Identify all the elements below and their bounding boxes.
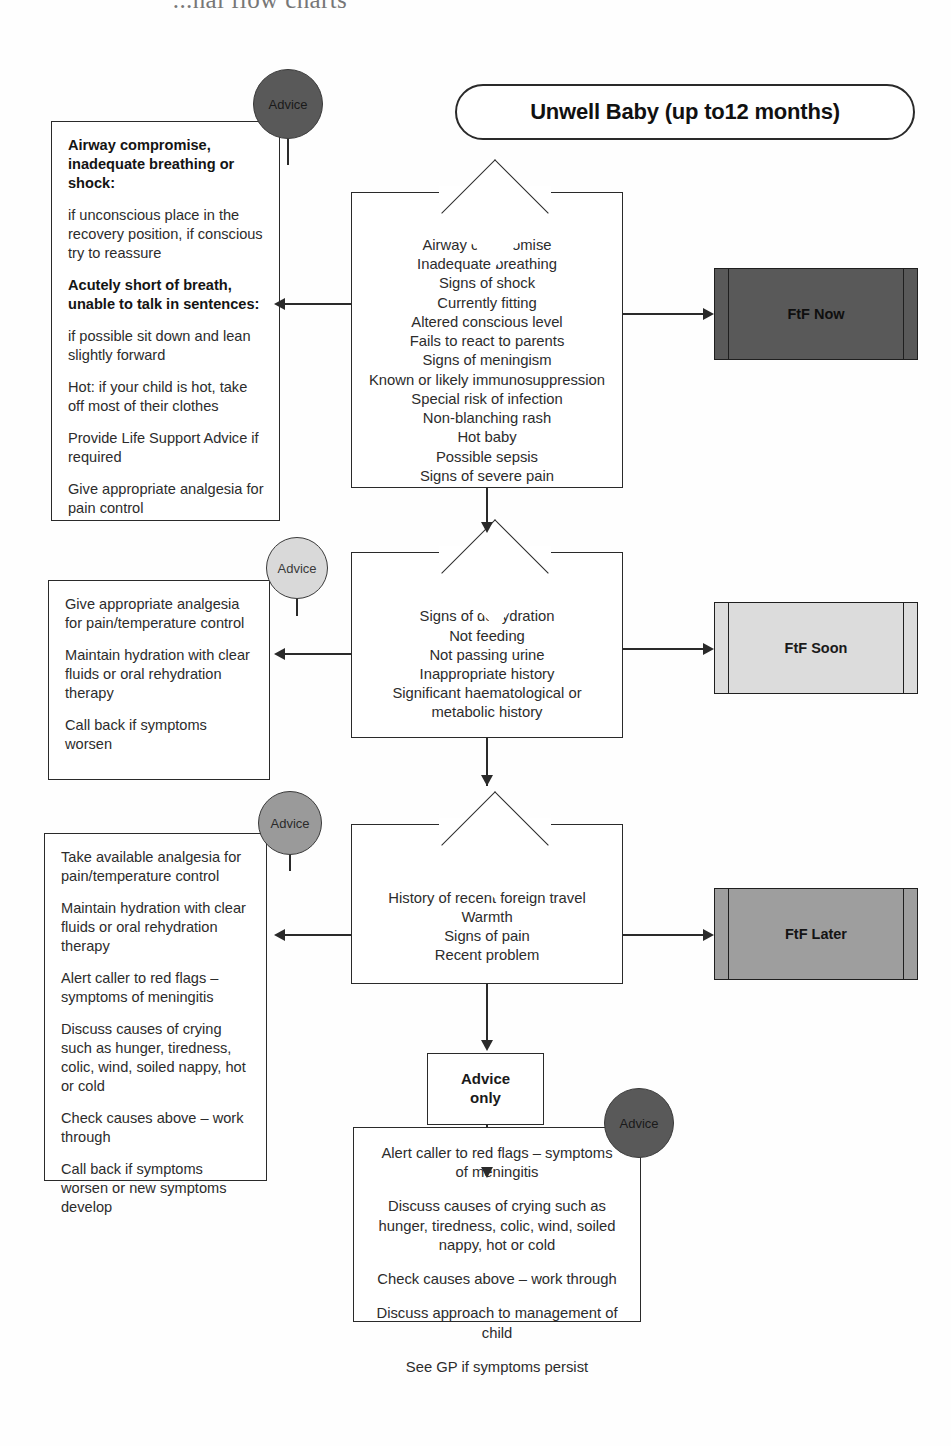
final-advice-line: Discuss approach to management of child — [374, 1304, 620, 1342]
decision-criterion: Significant haematological or — [392, 684, 581, 703]
final-advice-line: Alert caller to red flags – symptoms of … — [374, 1144, 620, 1182]
decision-criterion: Signs of meningism — [369, 351, 605, 370]
arrowhead-dec1-down — [481, 522, 493, 533]
ftf-now-label: FtF Now — [787, 306, 844, 322]
connector-dec3-to-adviceonly — [486, 984, 488, 1046]
flowchart-page: ...nal flow charts Unwell Baby (up to12 … — [0, 0, 951, 1446]
advice-only-line1: Advice — [461, 1070, 510, 1089]
advice-line: Give appropriate analgesia for pain cont… — [68, 480, 265, 518]
decision-criterion: Possible sepsis — [369, 448, 605, 467]
arrowhead-adviceonly-down — [481, 1167, 493, 1178]
final-advice-line: Discuss causes of crying such as hunger,… — [374, 1197, 620, 1255]
box3d-left-edge — [728, 269, 729, 359]
arrowhead-dec3-down — [481, 1040, 493, 1051]
box3d-left-edge — [728, 889, 729, 979]
ftf-now-box[interactable]: FtF Now — [714, 268, 918, 360]
final-advice-line: Check causes above – work through — [374, 1270, 620, 1289]
decision-criterion: Recent problem — [388, 946, 585, 965]
advice-circle-1-label: Advice — [268, 97, 307, 112]
advice-circle-2-label: Advice — [277, 561, 316, 576]
advice-circle-1[interactable]: Advice — [253, 69, 323, 139]
decision-criterion: Not feeding — [392, 627, 581, 646]
advice-circle-3[interactable]: Advice — [258, 791, 322, 855]
decision-criterion: metabolic history — [392, 703, 581, 722]
advice-box-now: Airway compromise, inadequate breathing … — [51, 121, 280, 521]
connector-dec2-to-ftfsoon — [623, 648, 703, 650]
decision-criterion: Signs of shock — [369, 274, 605, 293]
connector-dec3-to-ftflater — [623, 934, 703, 936]
advice-line: Airway compromise, inadequate breathing … — [68, 136, 265, 193]
advice-line: Discuss causes of crying such as hunger,… — [61, 1020, 252, 1096]
decision-criterion: Signs of severe pain — [369, 467, 605, 486]
advice-circle-2[interactable]: Advice — [266, 537, 328, 599]
decision-criterion: Currently fitting — [369, 294, 605, 313]
final-advice-box: Alert caller to red flags – symptoms of … — [353, 1127, 641, 1322]
arrowhead-dec1-right — [703, 308, 714, 320]
decision-criterion: Altered conscious level — [369, 313, 605, 332]
box3d-right-edge — [903, 603, 904, 693]
advice-line: Give appropriate analgesia for pain/temp… — [65, 595, 255, 633]
ftf-later-box[interactable]: FtF Later — [714, 888, 918, 980]
advice-circle-4[interactable]: Advice — [604, 1088, 674, 1158]
decision-criterion: Fails to react to parents — [369, 332, 605, 351]
advice-circle-3-label: Advice — [270, 816, 309, 831]
ftf-soon-label: FtF Soon — [785, 640, 848, 656]
final-advice-line: See GP if symptoms persist — [374, 1358, 620, 1377]
advice-line: Maintain hydration with clear fluids or … — [61, 899, 252, 956]
decision-criterion: Special risk of infection — [369, 390, 605, 409]
decision-criterion: Non-blanching rash — [369, 409, 605, 428]
advice-line: Hot: if your child is hot, take off most… — [68, 378, 265, 416]
connector-dec1-to-advice1 — [283, 303, 351, 305]
page-header-clipped: ...nal flow charts — [0, 0, 520, 12]
connector-dec1-to-ftfnow — [623, 313, 703, 315]
advice-line: Acutely short of breath, unable to talk … — [68, 276, 265, 314]
advice-box-soon: Give appropriate analgesia for pain/temp… — [48, 580, 270, 780]
arrowhead-dec1-left — [274, 298, 285, 310]
advice-line: if unconscious place in the recovery pos… — [68, 206, 265, 263]
arrowhead-dec2-left — [274, 648, 285, 660]
ftf-soon-box[interactable]: FtF Soon — [714, 602, 918, 694]
box3d-left-edge — [728, 603, 729, 693]
decision-criterion: Not passing urine — [392, 646, 581, 665]
arrowhead-dec3-left — [274, 929, 285, 941]
box3d-right-edge — [903, 269, 904, 359]
advice-only-box[interactable]: Advice only — [427, 1053, 544, 1125]
connector-dec2-to-advice2 — [283, 653, 351, 655]
advice-line: Alert caller to red flags – symptoms of … — [61, 969, 252, 1007]
ftf-later-label: FtF Later — [785, 926, 847, 942]
connector-dec3-to-advice3 — [283, 934, 351, 936]
advice-line: Call back if symptoms worsen — [65, 716, 255, 754]
advice-line: Call back if symptoms worsen or new symp… — [61, 1160, 252, 1217]
advice-line: Take available analgesia for pain/temper… — [61, 848, 252, 886]
decision-criterion: Hot baby — [369, 428, 605, 447]
advice-line: if possible sit down and lean slightly f… — [68, 327, 265, 365]
arrowhead-dec2-down — [481, 775, 493, 786]
page-title: Unwell Baby (up to12 months) — [455, 84, 915, 140]
box3d-right-edge — [903, 889, 904, 979]
arrowhead-dec3-right — [703, 929, 714, 941]
decision-criterion: Signs of pain — [388, 927, 585, 946]
decision-criterion: Warmth — [388, 908, 585, 927]
decision-criterion: Inappropriate history — [392, 665, 581, 684]
advice-circle-4-label: Advice — [619, 1116, 658, 1131]
arrowhead-dec2-right — [703, 643, 714, 655]
advice-box-later: Take available analgesia for pain/temper… — [44, 833, 267, 1181]
advice-only-line2: only — [461, 1089, 510, 1108]
advice-line: Provide Life Support Advice if required — [68, 429, 265, 467]
advice-line: Maintain hydration with clear fluids or … — [65, 646, 255, 703]
advice-line: Check causes above – work through — [61, 1109, 252, 1147]
decision-criterion: Known or likely immunosuppression — [369, 371, 605, 390]
